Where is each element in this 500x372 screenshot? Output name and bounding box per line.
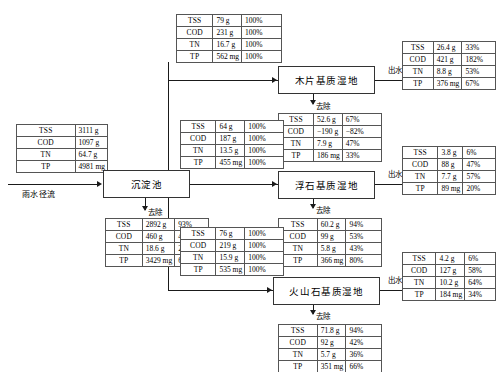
row-key: TSS bbox=[403, 253, 436, 265]
table-row: TP 4981 mg bbox=[17, 161, 108, 173]
row-key: TSS bbox=[17, 125, 76, 137]
table-row: COD 187 g 100% bbox=[181, 133, 284, 145]
row-pct: 20% bbox=[463, 183, 496, 195]
row-value: 8.8 g bbox=[433, 66, 462, 78]
row-pct: 33% bbox=[462, 42, 496, 54]
row-value: 460 g bbox=[142, 231, 174, 243]
row-key: TN bbox=[279, 243, 318, 255]
process-wetland-pumice[interactable]: 浮石基质湿地 bbox=[278, 171, 375, 199]
row-value: 7.7 g bbox=[438, 171, 463, 183]
row-pct: 100% bbox=[245, 133, 284, 145]
process-settling-tank[interactable]: 沉淀池 bbox=[103, 170, 190, 198]
row-key: TN bbox=[181, 252, 216, 264]
row-value: 52.6 g bbox=[314, 114, 343, 126]
table-row: TSS 71.8 g 94% bbox=[279, 325, 382, 337]
table-row: TP 89 mg 20% bbox=[403, 183, 496, 195]
row-key: TP bbox=[403, 183, 438, 195]
row-pct: 100% bbox=[245, 240, 284, 252]
table-row: COD −190 g −82% bbox=[279, 126, 382, 138]
row-value: 3111 g bbox=[75, 125, 107, 137]
row-value: 421 g bbox=[433, 54, 462, 66]
label-removal-bot: 去除 bbox=[316, 310, 331, 321]
table-row: COD 88 g 47% bbox=[403, 159, 496, 171]
row-key: COD bbox=[181, 133, 216, 145]
process-wetland-woodchip[interactable]: 木片基质湿地 bbox=[278, 66, 375, 94]
row-value: 5.8 g bbox=[317, 243, 346, 255]
table-row: TN 64.7 g bbox=[17, 149, 108, 161]
row-value: 99 g bbox=[317, 231, 346, 243]
row-key: TP bbox=[17, 161, 76, 173]
table-row: TN 7.9 g 47% bbox=[279, 138, 382, 150]
table-row: COD 99 g 53% bbox=[279, 231, 382, 243]
table-row: TN 5.8 g 43% bbox=[279, 243, 382, 255]
row-pct: 33% bbox=[342, 150, 381, 162]
row-value: 219 g bbox=[216, 240, 245, 252]
table-row: COD 231 g 100% bbox=[177, 27, 282, 39]
row-pct: 67% bbox=[462, 78, 496, 90]
label-effluent-top: 出水 bbox=[388, 64, 403, 75]
label-effluent-bot: 出水 bbox=[388, 274, 403, 285]
row-key: TN bbox=[181, 145, 216, 157]
row-key: TSS bbox=[181, 228, 216, 240]
row-value: 184 mg bbox=[436, 289, 465, 301]
row-key: TP bbox=[106, 255, 143, 267]
row-value: 366 mg bbox=[317, 255, 346, 267]
table-row: TN 16.7 g 100% bbox=[177, 39, 282, 51]
row-value: 562 mg bbox=[213, 51, 242, 63]
row-key: TSS bbox=[403, 147, 438, 159]
row-pct: 182% bbox=[462, 54, 496, 66]
row-key: COD bbox=[279, 337, 318, 349]
row-key: COD bbox=[177, 27, 213, 39]
row-value: 10.2 g bbox=[436, 277, 465, 289]
row-key: TP bbox=[181, 264, 216, 276]
row-pct: 58% bbox=[465, 265, 496, 277]
table-row: TN 15.9 g 100% bbox=[181, 252, 284, 264]
row-pct: 100% bbox=[245, 264, 284, 276]
row-value: −190 g bbox=[314, 126, 343, 138]
table-row: TN 7.7 g 57% bbox=[403, 171, 496, 183]
row-key: COD bbox=[181, 240, 216, 252]
table-row: TP 562 mg 100% bbox=[177, 51, 282, 63]
table-row: TN 13.5 g 100% bbox=[181, 145, 284, 157]
row-pct: 100% bbox=[245, 228, 284, 240]
row-pct: 53% bbox=[346, 231, 382, 243]
table-branch-top-out: TSS 26.4 g 33% COD 421 g 182% TN 8.8 g 5… bbox=[402, 41, 496, 90]
row-pct: 6% bbox=[463, 147, 496, 159]
row-pct: 100% bbox=[242, 15, 282, 27]
row-key: TSS bbox=[181, 121, 216, 133]
row-pct: 100% bbox=[242, 39, 282, 51]
row-pct: 100% bbox=[245, 121, 284, 133]
row-value: 26.4 g bbox=[433, 42, 462, 54]
table-row: TN 10.2 g 64% bbox=[403, 277, 496, 289]
row-value: 187 g bbox=[216, 133, 245, 145]
row-pct: 53% bbox=[462, 66, 496, 78]
row-value: 89 mg bbox=[438, 183, 463, 195]
table-row: COD 92 g 42% bbox=[279, 337, 382, 349]
line-branch-bot bbox=[168, 290, 273, 291]
table-row: TP 535 mg 100% bbox=[181, 264, 284, 276]
row-value: 64 g bbox=[216, 121, 245, 133]
row-key: TN bbox=[403, 66, 434, 78]
arrow-branch-bot bbox=[267, 287, 272, 293]
table-branch-mid-removal: TSS 60.2 g 94% COD 99 g 53% TN 5.8 g 43%… bbox=[278, 218, 382, 267]
row-pct: 100% bbox=[245, 252, 284, 264]
row-pct: 57% bbox=[463, 171, 496, 183]
row-pct: 47% bbox=[463, 159, 496, 171]
line-top-in-drop bbox=[168, 62, 169, 80]
table-branch-mid-in: TSS 64 g 100% COD 187 g 100% TN 13.5 g 1… bbox=[180, 120, 284, 169]
row-value: 18.6 g bbox=[142, 243, 174, 255]
row-key: TSS bbox=[279, 325, 318, 337]
row-value: 231 g bbox=[213, 27, 242, 39]
table-row: TP 351 mg 66% bbox=[279, 361, 382, 372]
row-value: 88 g bbox=[438, 159, 463, 171]
row-pct: 94% bbox=[346, 325, 382, 337]
process-wetland-volcanic[interactable]: 火山石基质湿地 bbox=[273, 277, 380, 305]
table-row: TN 8.8 g 53% bbox=[403, 66, 496, 78]
table-row: TP 366 mg 80% bbox=[279, 255, 382, 267]
label-effluent-mid: 出水 bbox=[388, 168, 403, 179]
table-row: TSS 3.8 g 6% bbox=[403, 147, 496, 159]
row-key: TN bbox=[403, 171, 438, 183]
row-key: TP bbox=[279, 361, 318, 372]
row-key: TN bbox=[403, 277, 436, 289]
arrow-branch-mid bbox=[272, 181, 277, 187]
